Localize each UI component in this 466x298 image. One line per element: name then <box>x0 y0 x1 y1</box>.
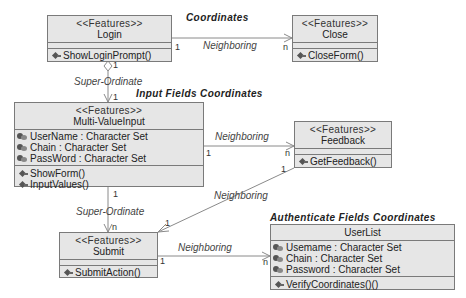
operation-icon <box>52 52 61 59</box>
class-submit[interactable]: <<Features>> Submit SubmitAction() <box>59 232 158 278</box>
operations-section: GetFeedback() <box>295 155 391 168</box>
attributes-section: Usemame : Character Set Chain : Characte… <box>271 241 454 277</box>
operation-icon <box>19 181 28 188</box>
assoc-label-login-mvi: Super-Ordinate <box>74 76 142 87</box>
class-feedback[interactable]: <<Features>> Feedback GetFeedback() <box>294 121 392 168</box>
mult-login-mvi-to: 1 <box>113 92 118 102</box>
operations-section: VerifyCoordinates()() <box>271 277 454 291</box>
operation: GetFeedback() <box>299 156 387 167</box>
class-header: <<Features>> Close <box>293 16 377 43</box>
class-name: Close <box>295 29 375 40</box>
attribute-icon <box>17 143 28 152</box>
class-name: UserList <box>273 227 452 238</box>
assoc-label-login-close: Neighboring <box>203 40 257 51</box>
class-user-list[interactable]: UserList Usemame : Character Set Chain :… <box>270 224 455 290</box>
attribute-icon <box>17 132 28 141</box>
assoc-label-feedback-submit: Neighboring <box>214 190 268 201</box>
stereotype: <<Features>> <box>297 124 389 135</box>
attribute-icon <box>273 265 284 274</box>
mult-feedback-submit-to: 1 <box>165 218 170 228</box>
mult-mvi-feedback-from: 1 <box>206 148 211 158</box>
attribute: UserName : Character Set <box>17 131 199 142</box>
class-close[interactable]: <<Features>> Close CloseForm() <box>292 15 378 62</box>
attribute-icon <box>273 243 284 252</box>
class-header: UserList <box>271 225 454 241</box>
class-header: <<Features>> Login <box>48 16 171 43</box>
mult-feedback-submit-from: 1 <box>281 164 286 174</box>
assoc-label-submit-userlist: Neighboring <box>178 242 232 253</box>
operation: SubmitAction() <box>64 267 153 278</box>
attribute: Usemame : Character Set <box>273 242 450 253</box>
operation-icon <box>299 158 308 165</box>
operation: InputValues() <box>19 179 199 190</box>
class-login[interactable]: <<Features>> Login ShowLoginPrompt() <box>47 15 172 62</box>
operation-icon <box>19 170 28 177</box>
class-name: Login <box>50 29 169 40</box>
operations-section: SubmitAction() <box>60 266 157 279</box>
stereotype: <<Features>> <box>62 235 155 246</box>
group-label-input-fields: Input Fields Coordinates <box>136 88 263 99</box>
operation: VerifyCoordinates()() <box>275 279 450 290</box>
attribute: Chain : Character Set <box>17 142 199 153</box>
mult-mvi-feedback-to: n <box>285 148 290 158</box>
class-header: <<Features>> Feedback <box>295 122 391 149</box>
operation-icon <box>297 52 306 59</box>
operation: CloseForm() <box>297 50 373 61</box>
assoc-label-mvi-feedback: Neighboring <box>215 131 269 142</box>
attribute-icon <box>273 254 284 263</box>
attribute: PassWord : Character Set <box>17 153 199 164</box>
stereotype: <<Features>> <box>17 105 201 116</box>
group-label-coordinates: Coordinates <box>186 12 249 23</box>
class-header: <<Features>> Multi-ValueInput <box>15 103 203 130</box>
mult-mvi-submit-to: n <box>112 222 117 232</box>
operation: ShowLoginPrompt() <box>52 50 167 61</box>
operations-section: ShowLoginPrompt() <box>48 49 171 62</box>
operation-icon <box>64 269 73 276</box>
group-label-authenticate-fields: Authenticate Fields Coordinates <box>270 212 436 223</box>
aggregation-diamond-icon <box>104 61 112 71</box>
attribute-icon <box>17 154 28 163</box>
class-name: Feedback <box>297 135 389 146</box>
attributes-section: UserName : Character Set Chain : Charact… <box>15 130 203 166</box>
class-name: Submit <box>62 246 155 257</box>
mult-login-close-to: n <box>283 42 288 52</box>
operations-section: CloseForm() <box>293 49 377 62</box>
class-multi-value-input[interactable]: <<Features>> Multi-ValueInput UserName :… <box>14 102 204 187</box>
stereotype: <<Features>> <box>295 18 375 29</box>
mult-submit-userlist-from: 1 <box>160 256 165 266</box>
operations-section: ShowForm() InputValues() <box>15 166 203 191</box>
operation: ShowForm() <box>19 168 199 179</box>
attribute: Chain : Character Set <box>273 253 450 264</box>
operation-icon <box>275 281 284 288</box>
attribute: Password : Character Set <box>273 264 450 275</box>
class-header: <<Features>> Submit <box>60 233 157 260</box>
stereotype: <<Features>> <box>50 18 169 29</box>
mult-submit-userlist-to: n <box>263 257 268 267</box>
assoc-label-mvi-submit: Super-Ordinate <box>76 206 144 217</box>
mult-login-close-from: 1 <box>175 42 180 52</box>
class-name: Multi-ValueInput <box>17 116 201 127</box>
